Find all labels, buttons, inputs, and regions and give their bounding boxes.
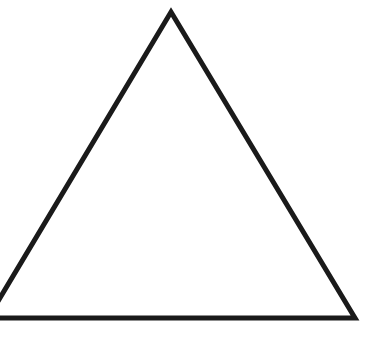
triangle-diagram: [0, 0, 365, 349]
triangle-outline: [0, 12, 355, 318]
